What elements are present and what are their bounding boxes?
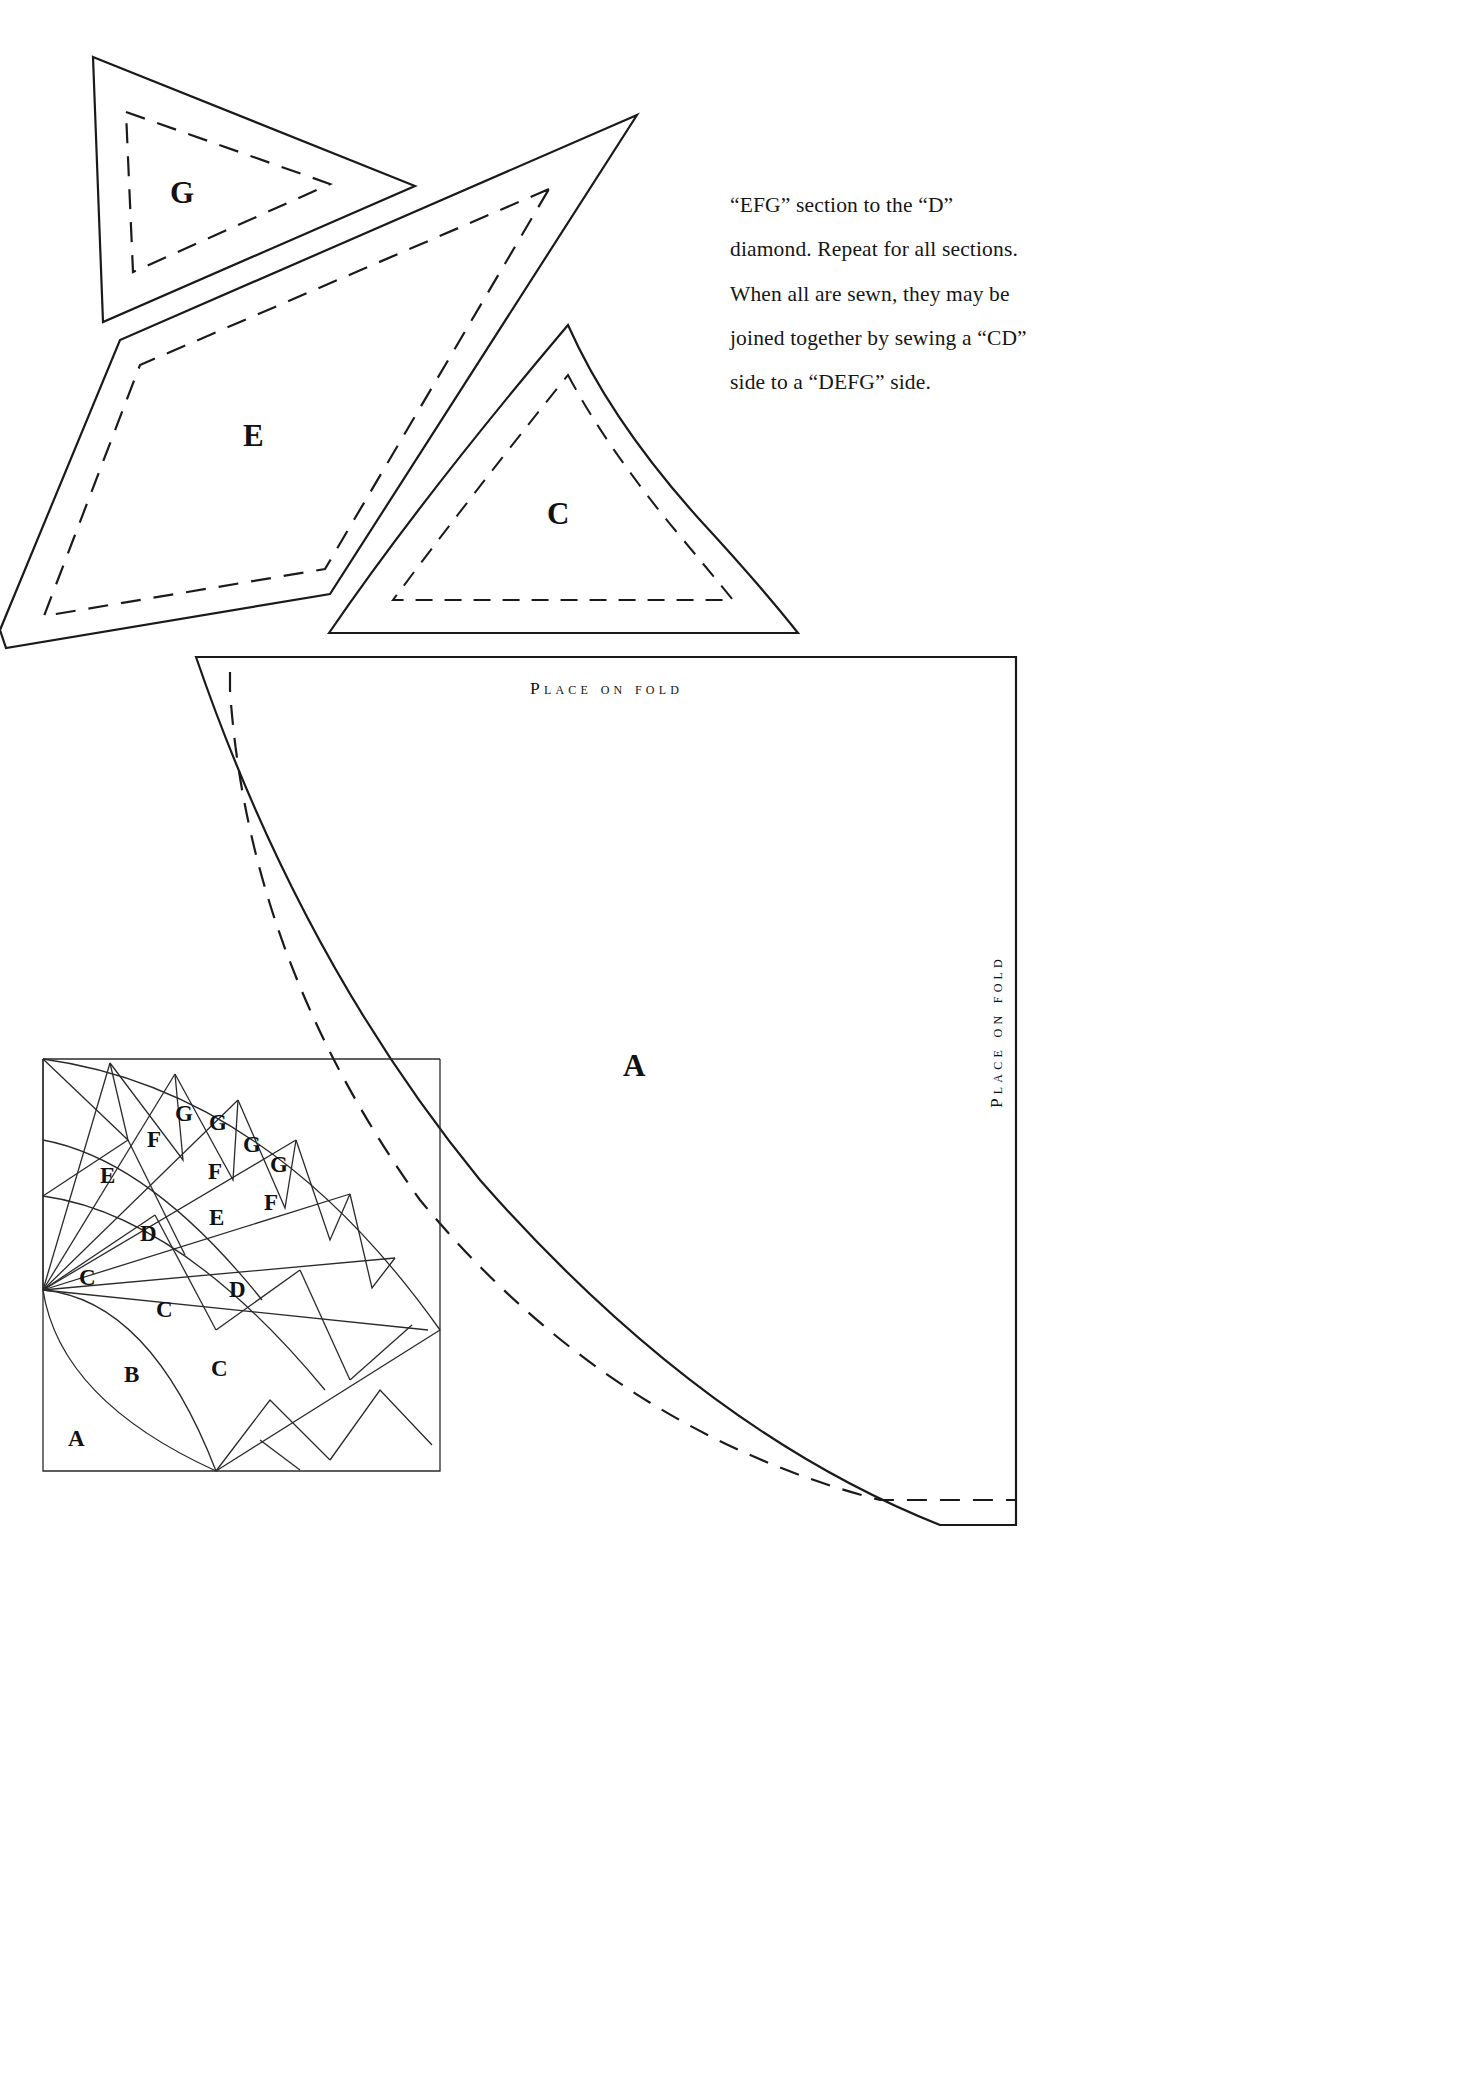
assembly-piece-label-c-2: C: [79, 1265, 96, 1291]
assembly-piece-label-e-8: E: [209, 1205, 224, 1231]
assembly-piece-label-c-3: C: [156, 1297, 173, 1323]
assembly-piece-label-g-12: G: [175, 1101, 193, 1127]
assembly-diagram-shape: [43, 1059, 440, 1471]
assembly-piece-label-g-14: G: [243, 1132, 261, 1158]
template-label-e: E: [243, 418, 264, 454]
instructions-paragraph: “EFG” section to the “D” diamond. Repeat…: [730, 183, 1050, 404]
template-label-g: G: [170, 175, 195, 211]
assembly-piece-label-c-4: C: [211, 1356, 228, 1382]
instructions-line-3: When all are sewn, they may be: [730, 272, 1050, 316]
assembly-piece-label-f-11: F: [264, 1190, 278, 1216]
instructions-line-4: joined together by sewing a “CD”: [730, 316, 1050, 360]
template-a-shape: [196, 657, 1016, 1525]
assembly-piece-label-d-6: D: [229, 1277, 246, 1303]
assembly-piece-label-e-7: E: [100, 1163, 115, 1189]
template-label-c: C: [547, 496, 570, 532]
assembly-piece-label-f-10: F: [208, 1159, 222, 1185]
template-e-shape: [0, 115, 637, 648]
assembly-piece-label-f-9: F: [147, 1127, 161, 1153]
place-on-fold-top-label: Place on fold: [530, 678, 683, 699]
template-c-shape: [329, 325, 798, 633]
assembly-piece-label-a-0: A: [68, 1426, 85, 1452]
assembly-piece-label-b-1: B: [124, 1362, 139, 1388]
instructions-line-1: “EFG” section to the “D”: [730, 183, 1050, 227]
place-on-fold-right-label: Place on fold: [986, 955, 1007, 1108]
assembly-piece-label-g-13: G: [209, 1110, 227, 1136]
assembly-piece-label-d-5: D: [140, 1221, 157, 1247]
pattern-page: “EFG” section to the “D” diamond. Repeat…: [0, 0, 1478, 2097]
template-label-a: A: [623, 1048, 646, 1084]
instructions-line-2: diamond. Repeat for all sections.: [730, 227, 1050, 271]
assembly-piece-label-g-15: G: [270, 1152, 288, 1178]
instructions-line-5: side to a “DEFG” side.: [730, 360, 1050, 404]
